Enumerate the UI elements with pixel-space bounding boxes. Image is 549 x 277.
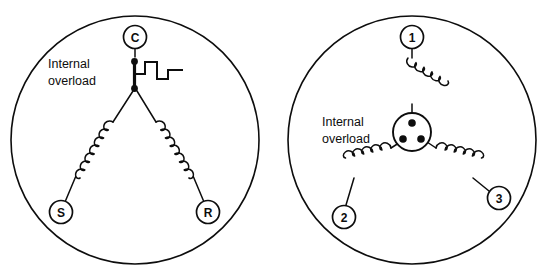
- single-phase-motor-diagram: Internal overload C S: [11, 16, 259, 264]
- three-phase-motor-diagram: Internal overload 1 2 3: [288, 16, 536, 264]
- node-dot-upper-left-diagram: [131, 58, 138, 65]
- internal-overload-label-line1-right: Internal: [322, 115, 364, 129]
- terminal-1-label: 1: [409, 31, 416, 45]
- terminal-s-label: S: [57, 206, 65, 220]
- motor-winding-figure: Internal overload C S: [0, 0, 549, 277]
- terminal-c-label: C: [131, 31, 140, 45]
- motor-diagram-svg: Internal overload C S: [0, 0, 549, 277]
- protector-node-dot-bottom-left: [399, 135, 407, 143]
- internal-overload-label-line2-right: overload: [322, 132, 370, 146]
- terminal-r-label: R: [204, 206, 213, 220]
- internal-overload-label-line2-left: overload: [48, 74, 96, 88]
- internal-overload-label-line1-left: Internal: [48, 57, 90, 71]
- terminal-3-label: 3: [496, 192, 503, 206]
- overload-protector-body-right: [393, 113, 431, 151]
- protector-node-dot-top: [408, 119, 416, 127]
- terminal-2-label: 2: [341, 211, 348, 225]
- protector-node-dot-bottom-right: [417, 135, 425, 143]
